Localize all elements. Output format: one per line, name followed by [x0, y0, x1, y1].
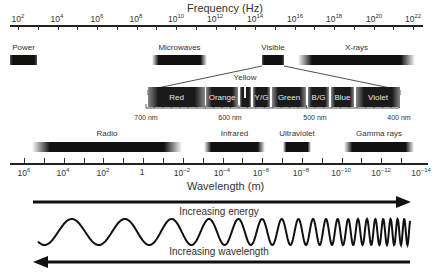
increasing-wavelength-label: Increasing wavelength [169, 246, 269, 257]
wavelength-arrow [33, 256, 410, 268]
sine-wave [38, 219, 410, 245]
increasing-energy-label: Increasing energy [179, 206, 259, 217]
energy-wave-diagram [0, 0, 435, 275]
